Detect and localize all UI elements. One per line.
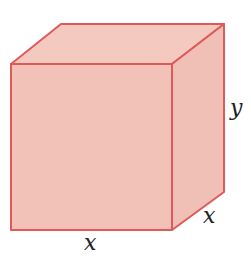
- height-label: y: [229, 95, 243, 120]
- width-label: x: [84, 230, 97, 255]
- front-face: [11, 64, 172, 230]
- depth-label: x: [203, 203, 216, 228]
- cube-diagram: y x x: [0, 0, 251, 257]
